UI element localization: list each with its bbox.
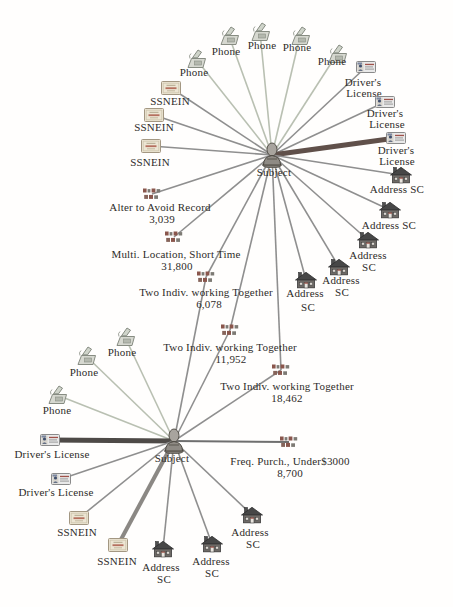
ssn-card-icon: [161, 81, 181, 95]
node-label-L1-0: Alter to Avoid Record: [109, 201, 210, 213]
node-label-D2-1: License: [369, 118, 405, 130]
node-address-A4: [328, 259, 350, 276]
node-label-A3-0: Address: [349, 249, 386, 261]
node-label-P5-0: Phone: [318, 55, 347, 67]
node-event-L2: [164, 231, 184, 244]
node-label-BL1-0: Freq. Purch., Under$3000: [230, 455, 349, 467]
node-address-BA2: [201, 536, 223, 553]
node-label-S1-0: SSNEIN: [150, 95, 190, 107]
node-address-A1: [390, 167, 412, 184]
node-label-BP2-0: Phone: [70, 366, 99, 378]
node-ssnein-BS1: [69, 511, 89, 525]
node-label-L3-1: 6,078: [196, 298, 222, 310]
drivers-license-icon: [40, 434, 60, 446]
house-icon: [295, 272, 317, 289]
person-icon: [163, 428, 185, 454]
node-label-BA2-0: Address: [192, 555, 229, 567]
ssn-card-icon: [144, 108, 164, 122]
node-label-A3-1: SC: [362, 261, 376, 273]
node-label-BP3-0: Phone: [43, 404, 72, 416]
drivers-license-icon: [51, 473, 71, 485]
sar-event-icon: [271, 364, 291, 377]
node-phone-P2: [218, 26, 240, 46]
node-label-L1-1: 3,039: [149, 213, 175, 225]
node-subject-T: [261, 142, 283, 168]
person-icon: [261, 142, 283, 168]
node-ssnein-S2: [144, 108, 164, 122]
node-label-S3-0: SSNEIN: [130, 156, 170, 168]
node-label-D3-1: License: [379, 155, 415, 167]
node-label-BA1-0: Address: [142, 561, 179, 573]
phone-icon: [46, 385, 68, 405]
node-license-BD2: [51, 473, 71, 485]
node-label-BD2-0: Driver's License: [18, 486, 93, 498]
node-address-A2: [379, 202, 401, 219]
link-analysis-chart: Subject Phone Phone Phone Phone Phone S: [0, 0, 453, 607]
node-label-B-0: Subject: [155, 452, 189, 464]
node-label-BS2-0: SSNEIN: [97, 555, 137, 567]
sar-event-icon: [142, 188, 162, 201]
drivers-license-icon: [356, 61, 376, 73]
ssn-card-icon: [141, 139, 161, 153]
node-label-L2-0: Multi. Location, Short Time: [111, 248, 240, 260]
node-address-A3: [357, 232, 379, 249]
node-phone-BP3: [46, 385, 68, 405]
node-event-L5: [271, 364, 291, 377]
node-ssnein-S3: [141, 139, 161, 153]
phone-icon: [75, 346, 97, 366]
node-label-L4-1: 11,952: [215, 353, 246, 365]
node-ssnein-BS2: [108, 538, 128, 552]
node-license-D3: [386, 132, 406, 144]
sar-event-icon: [279, 436, 299, 449]
node-license-D1: [356, 61, 376, 73]
node-address-BA3: [241, 507, 263, 524]
node-label-L2-1: 31,800: [161, 260, 192, 272]
node-label-BA2-1: SC: [205, 567, 219, 579]
house-icon: [357, 232, 379, 249]
phone-icon: [114, 327, 136, 347]
ssn-card-icon: [108, 538, 128, 552]
node-label-P1-0: Phone: [180, 66, 209, 78]
node-label-S2-0: SSNEIN: [134, 121, 174, 133]
house-icon: [152, 541, 174, 558]
nodes-layer: Subject Phone Phone Phone Phone Phone S: [0, 0, 453, 607]
node-label-T-0: Subject: [257, 166, 291, 178]
node-license-BD1: [40, 434, 60, 446]
house-icon: [328, 259, 350, 276]
node-address-BA1: [152, 541, 174, 558]
house-icon: [390, 167, 412, 184]
node-label-BP1-0: Phone: [108, 346, 137, 358]
node-event-L3: [196, 271, 216, 284]
node-label-L5-0: Two Indiv. working Together: [220, 380, 354, 392]
node-label-P2-0: Phone: [212, 45, 241, 57]
drivers-license-icon: [386, 132, 406, 144]
node-label-BA3-1: SC: [246, 538, 260, 550]
node-label-A4-1: SC: [335, 286, 349, 298]
node-label-BD1-0: Driver's License: [14, 448, 89, 460]
ssn-card-icon: [69, 511, 89, 525]
node-label-A4-0: Address: [322, 274, 359, 286]
node-label-BL1-1: 8,700: [277, 467, 303, 479]
node-label-L4-0: Two Indiv. working Together: [163, 341, 297, 353]
node-label-BA1-1: SC: [157, 573, 171, 585]
sar-event-icon: [164, 231, 184, 244]
sar-event-icon: [220, 324, 240, 337]
node-phone-BP1: [114, 327, 136, 347]
node-event-BL1: [279, 436, 299, 449]
node-label-L3-0: Two Indiv. working Together: [139, 286, 273, 298]
node-event-L4: [220, 324, 240, 337]
node-label-A5-0: Address: [286, 287, 323, 299]
node-label-A1-0: Address SC: [370, 183, 424, 195]
node-address-A5: [295, 272, 317, 289]
node-label-BA3-0: Address: [231, 526, 268, 538]
node-label-L5-1: 18,462: [271, 392, 302, 404]
node-label-A2-0: Address SC: [362, 219, 416, 231]
node-label-P3-0: Phone: [248, 39, 277, 51]
house-icon: [241, 507, 263, 524]
phone-icon: [218, 26, 240, 46]
node-phone-BP2: [75, 346, 97, 366]
node-label-BS1-0: SSNEIN: [57, 526, 97, 538]
node-subject-B: [163, 428, 185, 454]
node-ssnein-S1: [161, 81, 181, 95]
node-event-L1: [142, 188, 162, 201]
